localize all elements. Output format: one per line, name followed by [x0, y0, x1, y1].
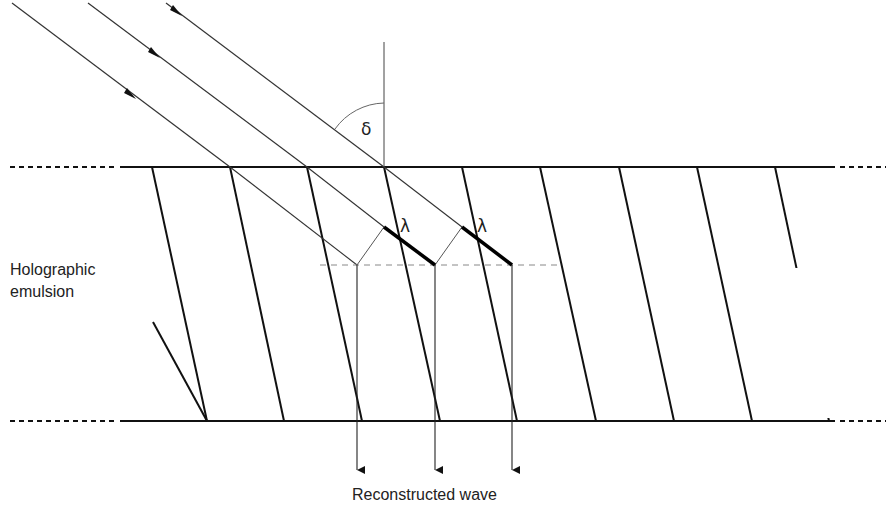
hologram-diagram	[0, 0, 888, 513]
angle-arc	[335, 103, 384, 129]
wavelength-label-2: λ	[477, 216, 487, 236]
fringe-planes	[152, 167, 829, 421]
emulsion-label-line1: Holographic	[10, 259, 95, 281]
incident-rays	[12, 3, 384, 167]
reconstructed-rays	[357, 265, 512, 470]
partial-fringe-left	[153, 322, 207, 421]
emulsion-label: Holographic emulsion	[10, 259, 95, 303]
angle-delta-label: δ	[361, 119, 371, 139]
emulsion-label-line2: emulsion	[10, 281, 95, 303]
wavelength-label-1: λ	[400, 216, 410, 236]
reconstructed-wave-label: Reconstructed wave	[352, 484, 497, 506]
ray-arrow-icons	[124, 5, 182, 99]
refracted-rays	[230, 167, 462, 265]
